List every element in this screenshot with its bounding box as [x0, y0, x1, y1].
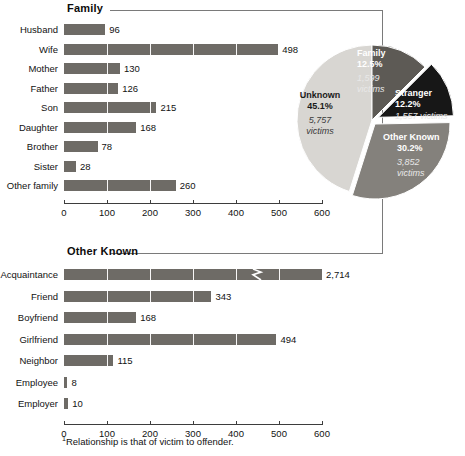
bar [64, 161, 76, 172]
bar-category-label: Boyfriend [0, 312, 58, 323]
pie-label-family-name: Family [357, 48, 386, 59]
pie-label-other-known-pct: 30.2% [397, 143, 440, 154]
bar-value-label: 115 [117, 355, 132, 366]
bar-gridline [107, 269, 108, 280]
pie-label-unknown-unit: victims [288, 126, 352, 137]
bar-value-label: 28 [80, 161, 91, 172]
pie-label-other-known: Other Known 30.2% 3,852 victims [383, 132, 440, 179]
bar-gridline [150, 44, 151, 55]
bar-category-label: Girlfriend [0, 334, 58, 345]
bar-gridline [193, 291, 194, 302]
bar-value-label: 168 [140, 312, 156, 323]
pie-label-stranger: Stranger 12.2% 1,557 victims [395, 88, 448, 122]
bar [64, 180, 176, 191]
x-axis-tick [322, 421, 323, 424]
bar-category-label: Employer [0, 398, 58, 409]
bar-category-label: Neighbor [0, 355, 58, 366]
pie-label-unknown-name: Unknown [288, 90, 352, 101]
bar-gridline [107, 63, 108, 74]
bar [64, 83, 118, 94]
bar-value-label: 2,714 [326, 269, 350, 280]
x-axis-line [64, 424, 323, 425]
bar-value-label: 126 [122, 83, 138, 94]
bar [64, 44, 278, 55]
bar-gridline [150, 334, 151, 345]
pie-label-family-pct: 12.5% [357, 59, 386, 70]
x-axis-tick [236, 421, 237, 424]
x-axis-tick [107, 200, 108, 203]
bar-gridline [150, 180, 151, 191]
bar-value-label: 10 [72, 398, 83, 409]
bar-gridline [193, 44, 194, 55]
bar-category-label: Other family [0, 180, 58, 191]
x-axis-tick [236, 200, 237, 203]
x-axis-tick [279, 421, 280, 424]
bar-value-label: 130 [124, 63, 140, 74]
relationship-pie-chart: Family 12.5% 1,599 victims Stranger 12.2… [280, 28, 465, 213]
pie-label-other-known-name: Other Known [383, 132, 440, 143]
pie-label-stranger-name: Stranger [395, 88, 448, 99]
bar-gridline [193, 334, 194, 345]
x-axis-tick [64, 200, 65, 203]
bar-category-label: Acquaintance [0, 269, 58, 280]
bar-value-label: 494 [280, 334, 296, 345]
bar-category-label: Employee [0, 377, 58, 388]
x-axis-tick [107, 421, 108, 424]
footnote-text: Relationship is that of victim to offend… [66, 436, 234, 447]
bar-value-label: 343 [215, 291, 231, 302]
bar-gridline [107, 122, 108, 133]
bar-gridline [107, 83, 108, 94]
bar [64, 24, 105, 35]
bar-category-label: Wife [0, 44, 58, 55]
x-axis-tick-label: 100 [87, 207, 127, 218]
bar [64, 398, 68, 409]
pie-label-unknown-pct: 45.1% [288, 101, 352, 112]
x-axis-tick [193, 421, 194, 424]
bar [64, 63, 120, 74]
bar-value-label: 260 [180, 180, 196, 191]
x-axis-tick-label: 500 [259, 428, 299, 439]
bar [64, 334, 276, 345]
bar-category-label: Brother [0, 141, 58, 152]
pie-label-family: Family 12.5% 1,599 victims [357, 48, 386, 95]
bar-value-label: 168 [140, 122, 156, 133]
bar-category-label: Husband [0, 24, 58, 35]
x-axis-tick [150, 421, 151, 424]
bar-value-label: 78 [102, 141, 113, 152]
other-known-bar-chart: Acquaintance2,714Friend343Boyfriend168Gi… [0, 243, 340, 433]
bar-gridline [107, 291, 108, 302]
x-axis-tick-label: 400 [216, 207, 256, 218]
bar-category-label: Son [0, 102, 58, 113]
x-axis-tick [64, 421, 65, 424]
x-axis-tick-label: 200 [130, 207, 170, 218]
figure-root: Family Husband96Wife498Mother130Father12… [0, 0, 465, 456]
bar-gridline [107, 102, 108, 113]
x-axis-tick [150, 200, 151, 203]
pie-label-unknown: Unknown 45.1% 5,757 victims [288, 90, 352, 137]
bar [64, 122, 136, 133]
bar-category-label: Mother [0, 63, 58, 74]
bar-gridline [279, 269, 280, 280]
bar-gridline [236, 44, 237, 55]
bar-category-label: Daughter [0, 122, 58, 133]
bar-gridline [193, 269, 194, 280]
bar [64, 291, 211, 302]
pie-label-stranger-pct: 12.2% [395, 99, 448, 110]
bar-value-label: 215 [160, 102, 176, 113]
bar-gridline [107, 180, 108, 191]
pie-label-stranger-victims: 1,557 victims [395, 111, 448, 122]
bar [64, 141, 98, 152]
pie-label-other-known-unit: victims [397, 168, 440, 179]
bar-gridline [107, 312, 108, 323]
bar-category-label: Friend [0, 291, 58, 302]
pie-label-family-victims: 1,599 [357, 73, 386, 84]
x-axis-tick-label: 0 [44, 207, 84, 218]
bar-value-label: 96 [109, 24, 120, 35]
bar-category-label: Father [0, 83, 58, 94]
bar-gridline [236, 334, 237, 345]
bar-gridline [150, 291, 151, 302]
bar-value-label: 8 [71, 377, 76, 388]
pie-label-family-unit: victims [357, 84, 386, 95]
bar [64, 102, 156, 113]
x-axis-tick [193, 200, 194, 203]
